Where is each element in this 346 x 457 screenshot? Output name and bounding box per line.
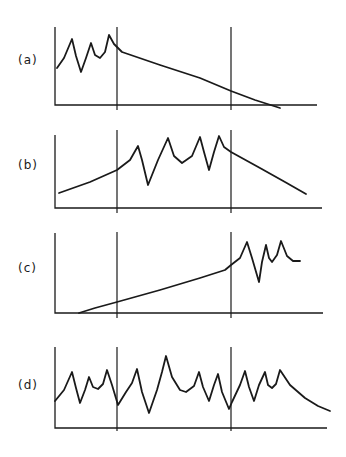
response-curve	[79, 241, 300, 313]
figure: (a) (b) (c) (d)	[0, 0, 346, 457]
response-curve	[59, 136, 306, 194]
panel-c	[55, 232, 323, 318]
axes	[55, 27, 317, 105]
panel-label-a: (a)	[18, 53, 38, 67]
panel-b	[55, 130, 322, 213]
axes	[55, 135, 322, 208]
panel-a	[55, 27, 317, 110]
response-curve	[55, 356, 330, 413]
panel-label-b: (b)	[18, 158, 38, 172]
panel-label-d: (d)	[18, 378, 38, 392]
response-curve	[57, 35, 280, 108]
panel-d	[55, 347, 330, 431]
panel-label-c: (c)	[18, 261, 37, 275]
